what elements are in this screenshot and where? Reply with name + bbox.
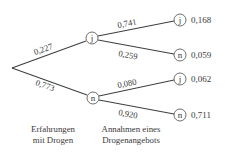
node-leaf-nj: j: [174, 73, 186, 85]
node-leaf-jn: n: [174, 49, 186, 61]
stage2-label-line1: Annahmen eines: [102, 124, 161, 134]
node-label: j: [178, 74, 182, 84]
branch-prob-j-j: 0,741: [116, 16, 137, 30]
branch-prob-j-n: 0,259: [118, 48, 139, 62]
path-prob-jn: 0,059: [191, 50, 212, 60]
path-prob-nn: 0,711: [191, 110, 211, 120]
node-leaf-nn: n: [174, 109, 186, 121]
node-label: j: [90, 33, 94, 43]
node-level1-n: n: [87, 92, 99, 104]
node-label: n: [91, 93, 96, 103]
node-label: n: [178, 110, 183, 120]
stage1-label-line2: mit Drogen: [33, 135, 74, 145]
path-prob-nj: 0,062: [191, 74, 211, 84]
node-label: j: [178, 15, 182, 25]
stage1-label-line1: Erfahrungen: [31, 124, 76, 134]
stage2-label-line2: Drogenangebots: [102, 135, 160, 145]
branch-prob-root-j: 0,227: [32, 41, 54, 57]
path-prob-jj: 0,168: [191, 15, 212, 25]
node-level1-j: j: [86, 32, 98, 44]
node-label: n: [178, 50, 183, 60]
branch-prob-n-n: 0,920: [118, 107, 139, 121]
node-leaf-jj: j: [174, 14, 186, 26]
branch-prob-root-n: 0,773: [34, 77, 56, 93]
probability-tree: 0,227 0,773 0,741 0,259 0,080 0,920 j n …: [0, 0, 225, 152]
